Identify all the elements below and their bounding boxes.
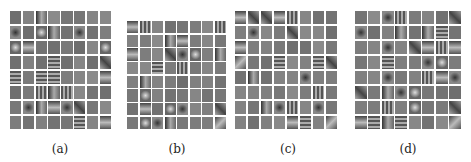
filter-cell xyxy=(313,41,324,54)
filter-cell xyxy=(165,35,176,47)
filter-cell xyxy=(355,26,367,39)
filter-cell xyxy=(74,116,85,129)
filter-cell xyxy=(127,48,138,60)
filter-cell xyxy=(127,103,138,115)
filter-cell xyxy=(300,86,311,99)
filter-cell xyxy=(140,89,151,101)
filter-cell xyxy=(74,41,85,54)
filter-cell xyxy=(261,116,272,129)
filter-cell xyxy=(61,86,72,99)
filter-cell xyxy=(74,26,85,39)
filter-cell xyxy=(165,89,176,101)
filter-cell xyxy=(23,26,34,39)
filter-cell xyxy=(202,89,213,101)
filter-cell xyxy=(313,56,324,69)
filter-cell xyxy=(215,103,226,115)
filter-cell xyxy=(36,116,47,129)
filter-cell xyxy=(165,103,176,115)
filter-cell xyxy=(10,101,21,114)
filter-cell xyxy=(436,101,448,114)
filter-cell xyxy=(36,86,47,99)
filter-cell xyxy=(261,41,272,54)
filter-cell xyxy=(409,86,421,99)
filter-cell xyxy=(48,101,59,114)
filter-cell xyxy=(355,116,367,129)
filter-cell xyxy=(140,76,151,88)
filter-cell xyxy=(100,26,111,39)
filter-cell xyxy=(61,71,72,84)
filter-cell xyxy=(300,116,311,129)
filter-cell xyxy=(10,56,21,69)
filter-cell xyxy=(74,71,85,84)
filter-cell xyxy=(127,62,138,74)
filter-cell xyxy=(215,21,226,33)
filter-cell xyxy=(368,11,380,24)
filter-cell xyxy=(395,71,407,84)
filter-cell xyxy=(215,76,226,88)
filter-cell xyxy=(87,41,98,54)
filter-cell xyxy=(274,56,285,69)
filter-cell xyxy=(261,26,272,39)
filter-cell xyxy=(274,101,285,114)
filter-cell xyxy=(36,101,47,114)
filter-cell xyxy=(190,35,201,47)
filter-cell xyxy=(100,41,111,54)
filter-cell xyxy=(23,41,34,54)
filter-cell xyxy=(326,11,337,24)
filter-cell xyxy=(248,41,259,54)
filter-cell xyxy=(287,86,298,99)
filter-cell xyxy=(368,71,380,84)
filter-cell xyxy=(248,11,259,24)
filter-cell xyxy=(235,11,246,24)
filter-cell xyxy=(261,56,272,69)
filter-cell xyxy=(165,117,176,129)
filter-cell xyxy=(422,116,434,129)
filter-cell xyxy=(74,11,85,24)
filter-cell xyxy=(23,86,34,99)
filter-cell xyxy=(61,41,72,54)
filter-cell xyxy=(287,71,298,84)
filter-cell xyxy=(274,71,285,84)
filter-cell xyxy=(313,86,324,99)
filter-cell xyxy=(202,21,213,33)
filter-cell xyxy=(300,41,311,54)
filter-cell xyxy=(326,101,337,114)
filter-cell xyxy=(449,86,461,99)
filter-cell xyxy=(190,117,201,129)
filter-cell xyxy=(395,116,407,129)
filter-cell xyxy=(61,101,72,114)
filter-cell xyxy=(23,101,34,114)
filter-cell xyxy=(177,21,188,33)
filter-cell xyxy=(409,71,421,84)
filter-cell xyxy=(326,86,337,99)
filter-cell xyxy=(127,35,138,47)
filter-cell xyxy=(87,56,98,69)
panel-caption-c: (c) xyxy=(268,142,308,156)
filter-cell xyxy=(248,116,259,129)
filter-cell xyxy=(190,48,201,60)
filter-cell xyxy=(248,26,259,39)
filter-cell xyxy=(436,71,448,84)
filter-cell xyxy=(436,41,448,54)
filter-cell xyxy=(152,103,163,115)
filter-cell xyxy=(368,101,380,114)
filter-cell xyxy=(74,101,85,114)
filter-cell xyxy=(395,41,407,54)
filter-cell xyxy=(313,11,324,24)
filter-cell xyxy=(313,116,324,129)
filter-cell xyxy=(261,86,272,99)
filter-cell xyxy=(422,41,434,54)
filter-cell xyxy=(87,71,98,84)
filter-cell xyxy=(165,76,176,88)
filter-cell xyxy=(48,11,59,24)
filter-cell xyxy=(61,56,72,69)
filter-cell xyxy=(36,11,47,24)
filter-cell xyxy=(395,86,407,99)
filter-cell xyxy=(127,117,138,129)
filter-grid-d xyxy=(355,11,461,129)
filter-cell xyxy=(23,11,34,24)
filter-cell xyxy=(261,71,272,84)
filter-cell xyxy=(23,56,34,69)
filter-cell xyxy=(274,11,285,24)
filter-cell xyxy=(235,116,246,129)
